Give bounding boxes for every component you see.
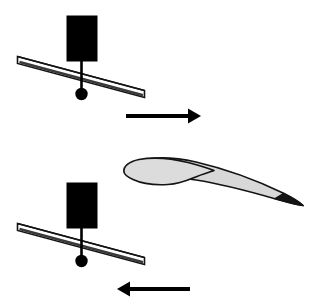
background-rect — [0, 0, 320, 308]
upper-weight-block — [67, 16, 97, 61]
upper-pivot-bob — [75, 88, 87, 100]
lower-pivot-bob — [75, 255, 87, 267]
lower-weight-block — [67, 183, 97, 228]
diagram-svg — [0, 0, 320, 308]
diagram-canvas: Balance beam with weight and airfoil dia… — [0, 0, 320, 308]
